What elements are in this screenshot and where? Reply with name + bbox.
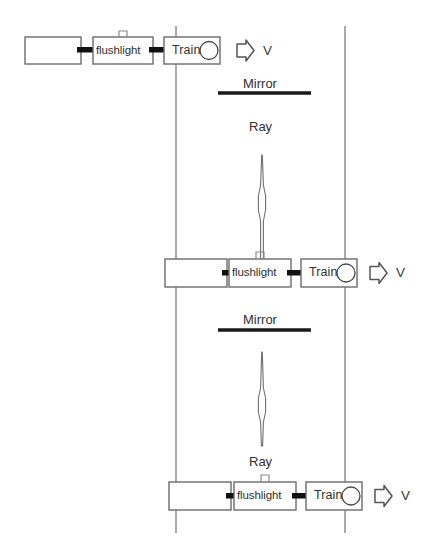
- ray-lower-shape: [258, 352, 265, 446]
- cargo-car-bottom[interactable]: [169, 482, 231, 510]
- cargo-car-middle[interactable]: [165, 259, 227, 287]
- diagram-vector-layer: [0, 0, 432, 554]
- flushlight-label-bottom: flushlight: [237, 490, 281, 502]
- train-label-bottom: Train: [314, 489, 343, 502]
- ray-lower-group: [258, 352, 265, 446]
- right-arrow-icon-middle: [370, 263, 387, 284]
- wheel-circle-icon-top: [200, 42, 218, 60]
- lamp-notch-icon-top: [119, 31, 127, 37]
- ray-upper-group: [258, 155, 265, 262]
- mirror-label-lower: Mirror: [243, 313, 277, 326]
- diagram-canvas: flushlight Train V Mirror Ray flushlight…: [0, 0, 432, 554]
- velocity-label-bottom: V: [401, 489, 410, 503]
- right-arrow-icon-bottom: [375, 486, 392, 507]
- mirror-label-upper: Mirror: [243, 77, 277, 90]
- train-label-middle: Train: [309, 266, 338, 279]
- ray-upper-shape: [258, 155, 265, 262]
- flushlight-label-middle: flushlight: [232, 267, 276, 279]
- cargo-car-top[interactable]: [25, 37, 81, 64]
- ray-label-upper: Ray: [249, 120, 272, 133]
- right-arrow-icon-top: [237, 40, 254, 61]
- flushlight-label-top: flushlight: [96, 45, 140, 57]
- train-label-top: Train: [172, 44, 201, 57]
- wheel-circle-icon-middle: [337, 264, 355, 282]
- velocity-label-top: V: [263, 44, 272, 58]
- ray-label-lower: Ray: [249, 455, 272, 468]
- wheel-circle-icon-bottom: [342, 487, 360, 505]
- lamp-notch-icon-bottom: [261, 475, 269, 482]
- velocity-label-middle: V: [396, 266, 405, 280]
